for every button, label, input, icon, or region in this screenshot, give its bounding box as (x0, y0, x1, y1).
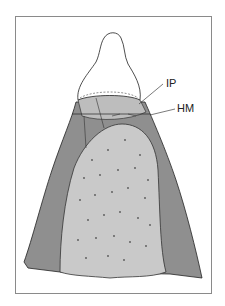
ip-leader-line (139, 84, 163, 104)
tooth-crown (78, 33, 141, 100)
hm-leader-line (150, 109, 175, 115)
label-hm: HM (177, 103, 194, 114)
tooth-diagram (0, 0, 225, 306)
label-ip: IP (166, 78, 176, 89)
